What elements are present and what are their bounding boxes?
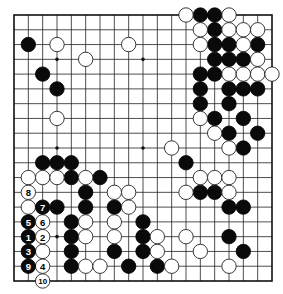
move-number-label: 7	[40, 202, 45, 213]
black-stone	[222, 126, 236, 140]
black-stone	[179, 156, 193, 170]
black-stone	[222, 96, 236, 110]
black-stone	[64, 156, 78, 170]
black-stone	[207, 67, 221, 81]
white-stone	[121, 200, 135, 214]
white-stone	[78, 52, 92, 66]
white-stone	[179, 185, 193, 199]
black-stone	[222, 229, 236, 243]
black-stone	[250, 82, 264, 96]
numbered-move-6: 6	[35, 215, 49, 229]
black-stone	[136, 229, 150, 243]
white-stone	[107, 215, 121, 229]
black-stone	[207, 111, 221, 125]
black-stone	[236, 82, 250, 96]
white-stone	[222, 8, 236, 22]
move-number-label: 5	[26, 217, 32, 228]
white-stone	[164, 259, 178, 273]
black-stone	[107, 244, 121, 258]
white-stone	[179, 8, 193, 22]
white-stone	[107, 185, 121, 199]
white-stone	[21, 170, 35, 184]
black-stone	[64, 259, 78, 273]
black-stone	[207, 23, 221, 37]
black-stone	[236, 52, 250, 66]
numbered-move-2: 2	[35, 229, 49, 243]
black-stone	[222, 200, 236, 214]
white-stone	[222, 23, 236, 37]
star-point	[55, 58, 59, 62]
star-point	[141, 58, 145, 62]
black-stone	[35, 67, 49, 81]
black-stone	[107, 200, 121, 214]
black-stone	[136, 215, 150, 229]
black-stone	[50, 156, 64, 170]
black-stone	[136, 244, 150, 258]
black-stone	[236, 111, 250, 125]
white-stone	[107, 229, 121, 243]
black-stone	[207, 37, 221, 51]
white-stone	[21, 200, 35, 214]
move-number-label: 10	[38, 277, 47, 286]
white-stone	[193, 111, 207, 125]
move-number-label: 1	[26, 232, 32, 243]
white-stone	[193, 244, 207, 258]
black-stone	[207, 52, 221, 66]
black-stone	[21, 37, 35, 51]
white-stone	[207, 126, 221, 140]
black-stone	[150, 259, 164, 273]
black-stone	[64, 244, 78, 258]
numbered-move-5: 5	[21, 215, 35, 229]
black-stone	[35, 156, 49, 170]
black-stone	[193, 96, 207, 110]
white-stone	[250, 52, 264, 66]
white-stone	[193, 170, 207, 184]
white-stone	[78, 215, 92, 229]
move-number-label: 9	[26, 261, 31, 272]
white-stone	[78, 259, 92, 273]
white-stone	[78, 229, 92, 243]
white-stone	[121, 185, 135, 199]
star-point	[55, 146, 59, 150]
numbered-move-10: 10	[35, 274, 49, 288]
black-stone	[236, 141, 250, 155]
move-number-label: 4	[40, 261, 46, 272]
white-stone	[250, 23, 264, 37]
white-stone	[236, 23, 250, 37]
black-stone	[64, 229, 78, 243]
black-stone	[193, 67, 207, 81]
numbered-move-7: 7	[35, 200, 49, 214]
white-stone	[250, 67, 264, 81]
black-stone	[121, 259, 135, 273]
star-point	[141, 146, 145, 150]
black-stone	[50, 82, 64, 96]
white-stone	[50, 111, 64, 125]
numbered-move-4: 4	[35, 259, 49, 273]
black-stone	[64, 215, 78, 229]
white-stone	[35, 244, 49, 258]
black-stone	[236, 244, 250, 258]
move-number-label: 2	[40, 232, 45, 243]
star-point	[55, 235, 59, 239]
white-stone	[150, 229, 164, 243]
black-stone	[78, 200, 92, 214]
black-stone	[193, 8, 207, 22]
white-stone	[236, 67, 250, 81]
black-stone	[207, 8, 221, 22]
white-stone	[236, 37, 250, 51]
white-stone	[93, 259, 107, 273]
numbered-move-8: 8	[21, 185, 35, 199]
move-number-label: 6	[40, 217, 45, 228]
white-stone	[78, 170, 92, 184]
black-stone	[250, 37, 264, 51]
white-stone	[265, 67, 279, 81]
white-stone	[193, 37, 207, 51]
numbered-move-1: 1	[21, 229, 35, 243]
move-number-label: 8	[26, 187, 31, 198]
go-board: 12345678910	[0, 0, 283, 294]
white-stone	[207, 170, 221, 184]
numbered-move-3: 3	[21, 244, 35, 258]
white-stone	[179, 229, 193, 243]
white-stone	[193, 23, 207, 37]
black-stone	[78, 185, 92, 199]
